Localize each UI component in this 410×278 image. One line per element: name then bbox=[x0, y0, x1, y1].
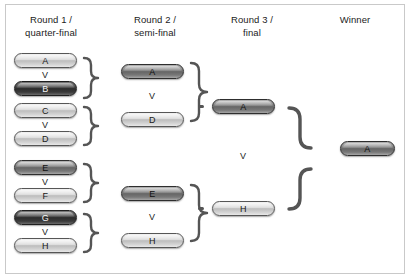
round2-match2-away-label: H bbox=[149, 236, 156, 246]
round1-match2-home-label: C bbox=[42, 106, 49, 116]
column-header-round1: Round 1 / quarter-final bbox=[8, 14, 94, 39]
column-header-winner: Winner bbox=[312, 14, 398, 27]
round1-match2-away-label: D bbox=[42, 134, 49, 144]
round2-match1-home-pill[interactable]: A bbox=[121, 64, 184, 79]
round1-match3-away-pill[interactable]: F bbox=[14, 188, 77, 203]
column-header-round3: Round 3 / final bbox=[212, 14, 292, 39]
winner-pill[interactable]: A bbox=[340, 141, 395, 156]
round3-match1-versus: V bbox=[236, 151, 250, 161]
round1-match4-versus: V bbox=[38, 227, 52, 237]
round2-match2-versus: V bbox=[145, 212, 159, 222]
round1-match3-versus: V bbox=[38, 177, 52, 187]
round1-match3-home-label: E bbox=[42, 163, 48, 173]
round3-match1-home-pill[interactable]: A bbox=[212, 99, 275, 114]
round1-match2-home-pill[interactable]: C bbox=[14, 103, 77, 118]
round1-match3-home-pill[interactable]: E bbox=[14, 160, 77, 175]
round2-match2-away-pill[interactable]: H bbox=[121, 233, 184, 248]
round1-match1-versus: V bbox=[38, 70, 52, 80]
round2-match2-home-pill[interactable]: E bbox=[121, 186, 184, 201]
round1-match4-home-label: G bbox=[42, 213, 49, 223]
round1-match3-away-label: F bbox=[43, 191, 49, 201]
winner-label: A bbox=[364, 144, 370, 154]
round2-match1-versus: V bbox=[145, 91, 159, 101]
round2-match1-away-label: D bbox=[149, 115, 156, 125]
round1-match1-away-pill[interactable]: B bbox=[14, 81, 77, 96]
column-header-round2: Round 2 / semi-final bbox=[112, 14, 198, 39]
round3-match1-home-label: A bbox=[240, 102, 246, 112]
round2-match2-home-label: E bbox=[149, 189, 155, 199]
round1-match2-versus: V bbox=[38, 120, 52, 130]
round1-match1-home-label: A bbox=[42, 56, 48, 66]
round3-match1-away-pill[interactable]: H bbox=[212, 201, 275, 216]
round3-match1-away-label: H bbox=[240, 204, 247, 214]
round1-match4-away-label: H bbox=[42, 241, 49, 251]
tournament-bracket-diagram: Round 1 / quarter-final Round 2 / semi-f… bbox=[0, 0, 410, 278]
round2-match1-home-label: A bbox=[149, 67, 155, 77]
round1-match1-away-label: B bbox=[42, 84, 48, 94]
round2-match1-away-pill[interactable]: D bbox=[121, 112, 184, 127]
round1-match4-away-pill[interactable]: H bbox=[14, 238, 77, 253]
round1-match1-home-pill[interactable]: A bbox=[14, 53, 77, 68]
round1-match4-home-pill[interactable]: G bbox=[14, 210, 77, 225]
round1-match2-away-pill[interactable]: D bbox=[14, 131, 77, 146]
